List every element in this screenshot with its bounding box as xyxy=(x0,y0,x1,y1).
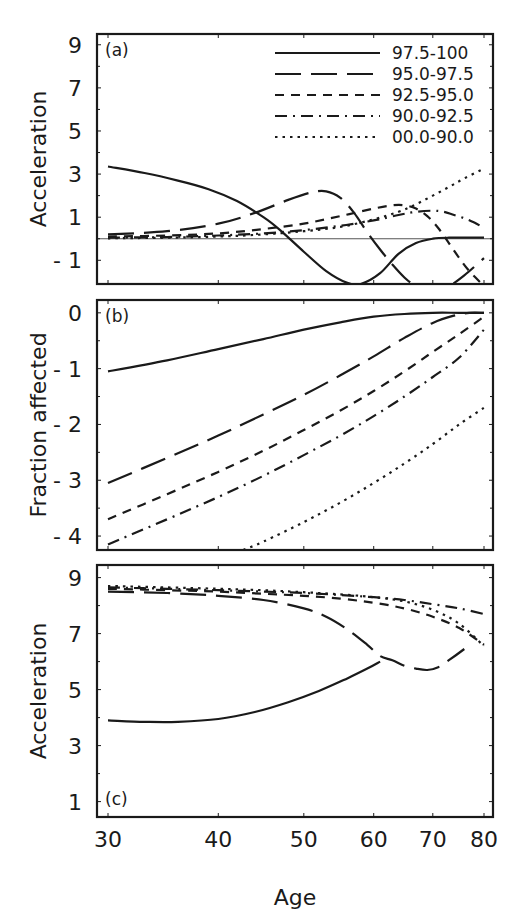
series-line-solid xyxy=(108,313,484,372)
series-line-dotted xyxy=(243,408,484,550)
y-axis-label: Acceleration xyxy=(26,91,51,228)
y-tick-label: - 1 xyxy=(53,248,82,273)
legend: 97.5-10095.0-97.592.5-95.090.0-92.500.0-… xyxy=(275,43,474,147)
y-tick-label: 9 xyxy=(68,566,82,591)
y-tick-label: 1 xyxy=(68,205,82,230)
y-tick-label: 1 xyxy=(68,790,82,815)
series-line-dash-dot xyxy=(108,211,484,238)
y-tick-label: 9 xyxy=(68,33,82,58)
y-tick-label: - 4 xyxy=(53,524,82,549)
x-tick-label: 30 xyxy=(94,827,122,852)
y-tick-label: 5 xyxy=(68,678,82,703)
y-tick-label: 7 xyxy=(68,622,82,647)
legend-label: 92.5-95.0 xyxy=(392,85,474,105)
legend-label: 97.5-100 xyxy=(392,43,468,63)
legend-label: 00.0-90.0 xyxy=(392,127,474,147)
y-tick-label: 7 xyxy=(68,76,82,101)
y-tick-label: 5 xyxy=(68,119,82,144)
panel-label: (a) xyxy=(105,40,129,60)
x-axis-label: Age xyxy=(274,885,317,910)
series-line-long-dash xyxy=(108,313,484,483)
x-tick-label: 70 xyxy=(419,827,447,852)
y-tick-label: 3 xyxy=(68,734,82,759)
series-line-solid xyxy=(108,167,484,285)
y-tick-label: 0 xyxy=(68,301,82,326)
x-tick-label: 80 xyxy=(470,827,498,852)
y-tick-label: - 2 xyxy=(53,412,82,437)
series-line-dash xyxy=(108,317,484,520)
x-tick-label: 60 xyxy=(360,827,388,852)
series-line-solid xyxy=(108,662,380,722)
series-line-dash xyxy=(108,589,484,645)
panel-label: (c) xyxy=(105,789,128,809)
y-axis-label: Acceleration xyxy=(26,623,51,760)
panel-c: 97531(c)Acceleration304050607080 xyxy=(26,565,498,852)
chart-panels: 97531- 1(a)Acceleration0- 1- 2- 3- 4(b)F… xyxy=(26,33,498,852)
legend-label: 90.0-92.5 xyxy=(392,106,474,126)
series-line-long-dash xyxy=(108,592,464,670)
panel-frame xyxy=(97,565,493,817)
y-tick-label: - 1 xyxy=(53,357,82,382)
x-tick-label: 40 xyxy=(204,827,232,852)
x-tick-label: 50 xyxy=(290,827,318,852)
panel-frame xyxy=(97,300,493,550)
chart-svg: 97531- 1(a)Acceleration0- 1- 2- 3- 4(b)F… xyxy=(0,0,525,919)
y-tick-label: 3 xyxy=(68,162,82,187)
panel-label: (b) xyxy=(105,306,129,326)
panel-b: 0- 1- 2- 3- 4(b)Fraction affected xyxy=(26,300,493,550)
y-axis-label: Fraction affected xyxy=(26,332,51,517)
legend-label: 95.0-97.5 xyxy=(392,64,474,84)
y-tick-label: - 3 xyxy=(53,468,82,493)
figure: 97531- 1(a)Acceleration0- 1- 2- 3- 4(b)F… xyxy=(0,0,525,919)
series-line-dotted xyxy=(108,169,484,239)
